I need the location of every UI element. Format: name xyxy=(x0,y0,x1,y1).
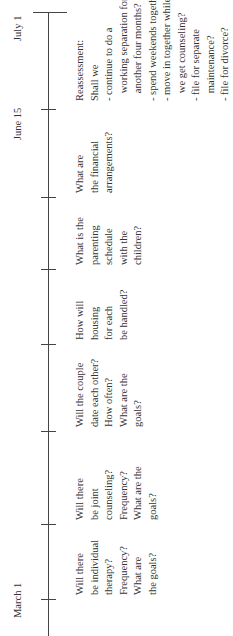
text-line: housing xyxy=(88,290,103,340)
text-line: be joint xyxy=(88,466,103,520)
timeline-axis xyxy=(48,12,49,636)
text-line: What is the xyxy=(73,217,88,265)
text-line: - file for divorce? xyxy=(218,0,233,101)
question-financial-arrangements: What arethe financialarrangements? xyxy=(73,132,117,193)
tick-march-1 xyxy=(41,599,56,600)
text-line: be individual xyxy=(88,540,103,595)
text-line: be handled? xyxy=(117,290,132,340)
question-individual-therapy: Will therebe individualtherapy?Frequency… xyxy=(73,540,160,595)
text-line: goals? xyxy=(146,466,161,520)
text-line: How often? xyxy=(102,359,117,427)
reassessment-options: Reassessment:Shall we- continue to do a … xyxy=(73,0,233,101)
text-line: therapy? xyxy=(102,540,117,595)
text-line: working separation for xyxy=(117,0,132,101)
text-line: we get counseling? xyxy=(175,0,190,101)
text-line: What are the xyxy=(117,359,132,427)
text-line: children? xyxy=(131,217,146,265)
text-line: What are xyxy=(131,540,146,595)
text-line: Frequency? xyxy=(117,466,132,520)
text-line: the financial xyxy=(88,132,103,193)
text-line: the goals? xyxy=(146,540,161,595)
tick-5 xyxy=(41,269,56,270)
text-line: maintenance? xyxy=(204,0,219,101)
text-line: arrangements? xyxy=(102,132,117,193)
text-line: with the xyxy=(117,217,132,265)
tick-july-1 xyxy=(33,12,67,13)
tick-2 xyxy=(41,524,56,525)
text-line: goals? xyxy=(131,359,146,427)
question-couple-dating: Will the coupledate each other?How often… xyxy=(73,359,146,427)
question-housing: How willhousingfor eachbe handled? xyxy=(73,290,131,340)
tick-june-15 xyxy=(41,109,56,110)
text-line: another four months? xyxy=(131,0,146,101)
tick-6 xyxy=(41,197,56,198)
question-parenting-schedule: What is theparentingschedulewith thechil… xyxy=(73,217,146,265)
mid-date-label: June 15 xyxy=(12,108,23,140)
tick-3 xyxy=(41,431,56,432)
text-line: How will xyxy=(73,290,88,340)
text-line: Reassessment: xyxy=(73,0,88,101)
text-line: Shall we xyxy=(88,0,103,101)
text-line: What are the xyxy=(131,466,146,520)
text-line: Frequency? xyxy=(117,540,132,595)
text-line: schedule xyxy=(102,217,117,265)
text-line: Will the couple xyxy=(73,359,88,427)
text-line: - spend weekends together? xyxy=(146,0,161,101)
timeline-diagram: March 1 June 15 July 1 Will therebe indi… xyxy=(0,0,233,636)
text-line: - move in together while xyxy=(160,0,175,101)
question-joint-counseling: Will therebe jointcounseling?Frequency?W… xyxy=(73,466,160,520)
text-line: Will there xyxy=(73,466,88,520)
text-line: - file for separate xyxy=(189,0,204,101)
text-line: counseling? xyxy=(102,466,117,520)
end-date-label: July 1 xyxy=(12,16,23,41)
start-date-label: March 1 xyxy=(12,583,23,618)
text-line: What are xyxy=(73,132,88,193)
text-line: date each other? xyxy=(88,359,103,427)
tick-4 xyxy=(41,344,56,345)
text-line: for each xyxy=(102,290,117,340)
text-line: Will there xyxy=(73,540,88,595)
text-line: parenting xyxy=(88,217,103,265)
text-line: - continue to do a xyxy=(102,0,117,101)
